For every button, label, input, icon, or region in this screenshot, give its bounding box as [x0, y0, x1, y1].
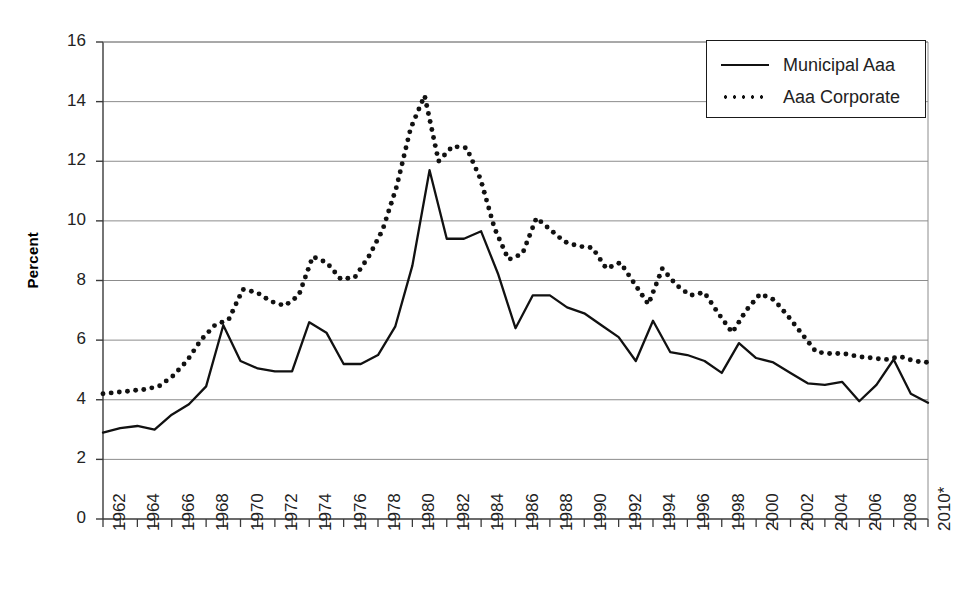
series-dots-aaa-corporate [101, 95, 929, 396]
x-axis-tick-label: 2010* [935, 487, 955, 531]
x-axis-tick-label: 1992 [626, 493, 646, 531]
legend-item-municipal-aaa: Municipal Aaa [719, 51, 895, 79]
x-axis-tick-label: 1980 [419, 493, 439, 531]
x-axis-tick-label: 1972 [282, 493, 302, 531]
y-axis-tick-label: 4 [46, 389, 86, 409]
y-axis-tick-label: 14 [46, 91, 86, 111]
x-axis-tick-label: 1978 [385, 493, 405, 531]
y-axis-tick-label: 2 [46, 448, 86, 468]
x-axis-tick-label: 1974 [316, 493, 336, 531]
y-axis-tick-label: 0 [46, 508, 86, 528]
x-axis-tick-label: 1988 [557, 493, 577, 531]
x-axis-tick-label: 1994 [660, 493, 680, 531]
legend-item-aaa-corporate: Aaa Corporate [719, 83, 900, 111]
y-axis-tick-label: 6 [46, 329, 86, 349]
x-axis-tick-label: 1982 [454, 493, 474, 531]
x-axis-tick-label: 1986 [523, 493, 543, 531]
x-axis-tick-label: 1998 [729, 493, 749, 531]
x-axis-tick-label: 1966 [179, 493, 199, 531]
x-axis-tick-label: 1962 [110, 493, 130, 531]
data-series-layer [101, 95, 929, 433]
legend-solid-line-icon [719, 58, 771, 72]
x-axis-tick-label: 1996 [694, 493, 714, 531]
legend-label-aaa-corporate: Aaa Corporate [783, 87, 900, 108]
y-axis-title: Percent [24, 232, 48, 288]
legend-dotted-line-icon [719, 90, 771, 104]
y-axis-tick-label: 8 [46, 270, 86, 290]
x-axis-tick-label: 1976 [351, 493, 371, 531]
x-axis-tick-label: 2000 [763, 493, 783, 531]
x-axis-tick-label: 2006 [866, 493, 886, 531]
x-axis-tick-label: 1964 [144, 493, 164, 531]
chart-legend: Municipal Aaa Aaa Corporate [706, 40, 926, 118]
series-line-municipal-aaa [103, 170, 928, 432]
y-axis-tick-label: 16 [46, 31, 86, 51]
x-axis-tick-label: 2008 [901, 493, 921, 531]
x-axis-tick-label: 2004 [832, 493, 852, 531]
y-axis-ticks [96, 42, 103, 519]
x-axis-tick-label: 2002 [798, 493, 818, 531]
x-axis-tick-label: 1968 [213, 493, 233, 531]
x-axis-tick-label: 1984 [488, 493, 508, 531]
y-axis-tick-label: 10 [46, 210, 86, 230]
x-axis-tick-label: 1990 [591, 493, 611, 531]
y-axis-tick-label: 12 [46, 150, 86, 170]
x-axis-tick-label: 1970 [248, 493, 268, 531]
legend-label-municipal-aaa: Municipal Aaa [783, 55, 895, 76]
interest-rate-line-chart: Percent 0246810121416 196219641966196819… [0, 0, 961, 613]
